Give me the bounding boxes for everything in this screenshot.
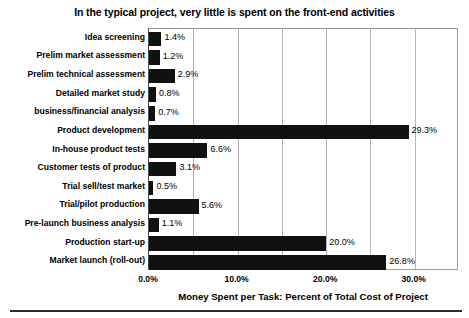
bar	[149, 162, 176, 177]
category-label: business/financial analysis	[0, 106, 145, 117]
bars-layer: 1.4%1.2%2.9%0.8%0.7%29.3%6.6%3.1%0.5%5.6…	[149, 29, 457, 269]
bar-value-label: 0.5%	[156, 181, 177, 192]
bar	[149, 236, 326, 251]
bar-row: 26.8%	[149, 252, 457, 271]
x-axis-tick-label: 0.0%	[138, 274, 158, 284]
bar	[149, 69, 175, 84]
category-label: Prelim market assessment	[0, 50, 145, 61]
bar	[149, 87, 156, 102]
bar-value-label: 3.1%	[179, 162, 200, 173]
bar-value-label: 1.4%	[164, 32, 185, 43]
bar-row: 5.6%	[149, 197, 457, 216]
bar-value-label: 1.1%	[162, 218, 183, 229]
category-label: Customer tests of product	[0, 162, 145, 173]
category-label: Pre-launch business analysis	[0, 218, 145, 229]
category-label: Idea screening	[0, 32, 145, 43]
bar	[149, 125, 409, 140]
bar-row: 2.9%	[149, 66, 457, 85]
bar-row: 6.6%	[149, 141, 457, 160]
bar-row: 1.1%	[149, 215, 457, 234]
category-label: Production start-up	[0, 237, 145, 248]
bar-row: 0.7%	[149, 103, 457, 122]
bar	[149, 255, 386, 270]
bar-row: 3.1%	[149, 159, 457, 178]
bar	[149, 218, 159, 233]
x-axis-tick-label: 20.0%	[313, 274, 337, 284]
bar	[149, 143, 207, 158]
category-label: Market launch (roll-out)	[0, 255, 145, 266]
category-axis-labels: Idea screeningPrelim market assessmentPr…	[0, 28, 145, 270]
category-label: Product development	[0, 125, 145, 136]
bar	[149, 199, 199, 214]
plot-area: 1.4%1.2%2.9%0.8%0.7%29.3%6.6%3.1%0.5%5.6…	[148, 28, 458, 270]
bar	[149, 32, 161, 47]
category-label: Trial/pilot production	[0, 199, 145, 210]
bar-row: 0.8%	[149, 85, 457, 104]
bar-value-label: 26.8%	[389, 256, 415, 267]
category-label: In-house product tests	[0, 144, 145, 155]
bar-value-label: 5.6%	[202, 200, 223, 211]
bar-row: 29.3%	[149, 122, 457, 141]
bar-value-label: 6.6%	[210, 144, 231, 155]
bar-row: 20.0%	[149, 234, 457, 253]
category-label: Prelim technical assessment	[0, 69, 145, 80]
bar-value-label: 1.2%	[163, 51, 184, 62]
bar-chart: In the typical project, very little is s…	[0, 0, 469, 318]
x-axis-tick-label: 10.0%	[224, 274, 248, 284]
bar-row: 1.2%	[149, 48, 457, 67]
x-axis-tick-label: 30.0%	[402, 274, 426, 284]
bar-value-label: 0.8%	[159, 88, 180, 99]
bar	[149, 50, 160, 65]
bar-value-label: 2.9%	[178, 69, 199, 80]
category-label: Detailed market study	[0, 88, 145, 99]
bar-row: 1.4%	[149, 29, 457, 48]
bar-value-label: 20.0%	[329, 237, 355, 248]
chart-title: In the typical project, very little is s…	[0, 6, 469, 18]
bar-row: 0.5%	[149, 178, 457, 197]
bar	[149, 106, 155, 121]
bar-value-label: 0.7%	[158, 107, 179, 118]
x-axis-tick-labels: 0.0%10.0%20.0%30.0%	[0, 274, 469, 288]
bottom-divider	[10, 310, 462, 312]
x-axis-title: Money Spent per Task: Percent of Total C…	[148, 291, 458, 302]
bar	[149, 181, 153, 196]
bar-value-label: 29.3%	[412, 125, 438, 136]
category-label: Trial sell/test market	[0, 181, 145, 192]
